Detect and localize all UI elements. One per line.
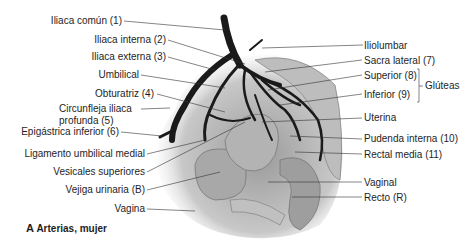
- label-vejiga-urinaria: Vejiga urinaria (B): [66, 184, 145, 195]
- label-pudenda-interna: Pudenda interna (10): [364, 133, 458, 144]
- label-recto: Recto (R): [364, 192, 407, 203]
- label-ligamento-umbilical-medial: Ligamento umbilical medial: [24, 148, 145, 159]
- label-uterina: Uterina: [364, 112, 396, 123]
- label-circunfleja-line2: profunda (5): [59, 115, 113, 126]
- label-glutea-superior: Superior (8): [364, 70, 417, 81]
- anatomy-figure: Iliaca común (1) Iliaca interna (2) Ilia…: [0, 0, 476, 251]
- label-gluteas-group: Glúteas: [425, 80, 459, 91]
- label-glutea-inferior: Inferior (9): [364, 89, 410, 100]
- label-iliaca-comun: Iliaca común (1): [51, 15, 122, 26]
- label-vagina: Vagina: [115, 203, 145, 214]
- label-epigastrica-inferior: Epigástrica inferior (6): [21, 126, 119, 137]
- label-iliaca-externa: Iliaca externa (3): [92, 51, 166, 62]
- caption-text: Arterias, mujer: [36, 223, 107, 234]
- label-iliaca-interna: Iliaca interna (2): [94, 34, 166, 45]
- figure-caption: A Arterias, mujer: [26, 222, 107, 234]
- label-rectal-media: Rectal media (11): [364, 149, 442, 160]
- label-vesicales-superiores: Vesicales superiores: [53, 166, 145, 177]
- label-iliolumbar: Iliolumbar: [364, 40, 407, 51]
- label-circunfleja-line1: Circunfleja iliaca: [59, 103, 132, 114]
- label-vaginal: Vaginal: [364, 177, 397, 188]
- label-sacra-lateral: Sacra lateral (7): [364, 55, 435, 66]
- caption-letter: A: [26, 222, 34, 234]
- label-obturatriz: Obturatriz (4): [95, 88, 154, 99]
- label-umbilical: Umbilical: [98, 69, 139, 80]
